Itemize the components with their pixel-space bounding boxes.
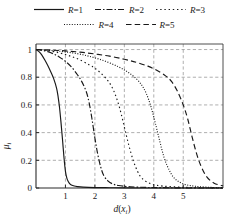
legend-row-1: R=1 R=2 R=3 xyxy=(0,2,239,17)
data-curves xyxy=(36,50,223,188)
legend-line-sample-r1 xyxy=(34,5,64,14)
curve-R-2 xyxy=(36,50,223,188)
curve-R-3 xyxy=(36,50,223,188)
legend-line-sample-r3 xyxy=(156,5,186,14)
y-ticklabel-0.2: 0.2 xyxy=(21,156,32,166)
legend-item-r5: R=5 xyxy=(126,20,175,30)
legend-item-r2: R=2 xyxy=(95,5,144,15)
svg-text:μi: μi xyxy=(1,143,12,151)
y-ticklabel-0.6: 0.6 xyxy=(21,100,33,110)
axis-frame xyxy=(36,44,223,188)
grid-layer xyxy=(36,44,223,188)
x-ticklabel-1: 1 xyxy=(63,191,68,201)
y-ticklabel-0.4: 0.4 xyxy=(21,128,33,138)
curve-R-1 xyxy=(36,50,223,188)
legend-line-sample-r4 xyxy=(64,20,94,29)
legend-line-sample-r2 xyxy=(95,5,125,14)
chart-legend: R=1 R=2 R=3 R=4 xyxy=(0,2,239,36)
x-axis-title: d(xi) xyxy=(113,204,130,215)
x-ticklabel-4: 4 xyxy=(152,191,157,201)
curve-R-5 xyxy=(36,50,223,186)
legend-label-r2: R=2 xyxy=(129,5,144,15)
line-chart-svg: 1234500.20.40.60.81 μi d(xi) xyxy=(0,36,239,223)
y-axis-title: μi xyxy=(1,143,12,151)
x-ticklabel-2: 2 xyxy=(93,191,98,201)
legend-line-sample-r5 xyxy=(126,20,156,29)
legend-label-r3: R=3 xyxy=(190,5,205,15)
x-ticklabel-3: 3 xyxy=(122,191,127,201)
chart-plot-area: 1234500.20.40.60.81 μi d(xi) xyxy=(0,36,239,223)
legend-item-r3: R=3 xyxy=(156,5,205,15)
legend-label-r4: R=4 xyxy=(98,20,113,30)
y-ticklabel-0.8: 0.8 xyxy=(21,72,33,82)
x-ticklabel-5: 5 xyxy=(181,191,186,201)
legend-row-2: R=4 R=5 xyxy=(0,17,239,32)
axis-tick-labels: 1234500.20.40.60.81 xyxy=(21,45,186,201)
y-ticklabel-0: 0 xyxy=(28,183,33,193)
figure-root: R=1 R=2 R=3 R=4 xyxy=(0,0,239,223)
legend-label-r1: R=1 xyxy=(68,5,83,15)
curve-R-4 xyxy=(36,50,223,188)
legend-item-r1: R=1 xyxy=(34,5,83,15)
legend-item-r4: R=4 xyxy=(64,20,113,30)
y-ticklabel-1: 1 xyxy=(28,45,33,55)
legend-label-r5: R=5 xyxy=(160,20,175,30)
axis-ticks xyxy=(36,50,183,188)
